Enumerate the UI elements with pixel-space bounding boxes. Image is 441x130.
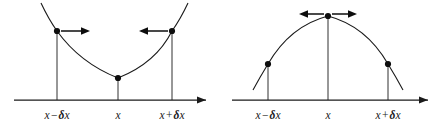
point-center [115, 75, 121, 81]
tick-label-x-plus-delta-x: x+δx [374, 109, 401, 121]
figure-root: x−δx x x+δx x−δx x x+δx [0, 0, 441, 130]
point-right [385, 61, 391, 67]
tick-label-x-minus-delta-x: x−δx [43, 109, 70, 121]
upward-parabola-curve [41, 3, 188, 78]
label-var-x2: x [178, 109, 185, 121]
label-var-x: x [43, 109, 50, 121]
label-var-x: x [254, 109, 261, 121]
label-var-x2: x [63, 109, 70, 121]
label-var-x: x [324, 109, 331, 121]
diagram-maximum-panel: x−δx x x+δx [220, 0, 441, 130]
point-left [54, 28, 60, 34]
point-right [169, 28, 175, 34]
label-operator-minus: − [262, 109, 269, 121]
label-operator-plus: + [166, 109, 173, 121]
point-left [265, 61, 271, 67]
tick-label-x-plus-delta-x: x+δx [158, 109, 185, 121]
label-var-x: x [374, 109, 381, 121]
axis-arrowhead-icon [419, 97, 428, 104]
point-center [325, 13, 331, 19]
label-var-x: x [158, 109, 165, 121]
axis-arrowhead-icon [197, 97, 206, 104]
label-var-x2: x [394, 109, 401, 121]
tick-label-x: x [324, 109, 331, 121]
tick-label-x: x [114, 109, 121, 121]
arrow-right-from-left-point [61, 27, 90, 35]
label-operator-plus: + [382, 109, 389, 121]
arrow-left-from-right-point [139, 27, 168, 35]
diagram-minimum-panel: x−δx x x+δx [0, 0, 220, 130]
arrow-right-from-center-point [332, 10, 357, 18]
arrow-left-from-center-point [299, 10, 324, 18]
tick-label-x-minus-delta-x: x−δx [254, 109, 281, 121]
label-var-x: x [114, 109, 121, 121]
label-var-x2: x [274, 109, 281, 121]
label-operator-minus: − [51, 109, 58, 121]
